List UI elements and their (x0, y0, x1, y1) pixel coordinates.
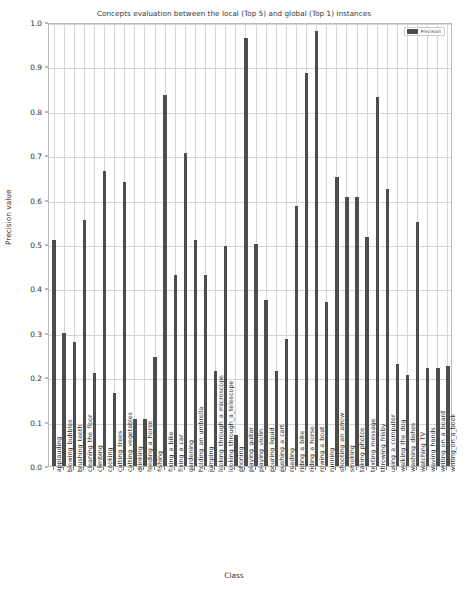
x-tick-mark (356, 467, 357, 470)
bar (52, 240, 55, 466)
y-tick-label: 0.6 (30, 196, 42, 205)
bar (355, 197, 358, 466)
bar (315, 31, 318, 466)
x-tick-label: taking_photos (358, 428, 365, 472)
x-tick-label: climbing (96, 445, 103, 472)
x-tick-mark (295, 467, 296, 470)
x-axis-ticks: applaudingblowing_bubblesbrushing_teethc… (48, 467, 452, 577)
bar (204, 275, 207, 466)
bar (153, 357, 156, 466)
bar (376, 97, 379, 466)
x-tick-label: rowing_a_boat (318, 426, 325, 472)
y-tick-label: 1.0 (30, 19, 42, 28)
x-tick-label: walking_the_dog (399, 419, 406, 472)
x-tick-mark (194, 467, 195, 470)
x-tick-label: cleaning_the_floor (86, 414, 93, 472)
legend-swatch-precision (407, 29, 418, 34)
x-tick-label: playing_violin (257, 429, 264, 472)
x-tick-mark (174, 467, 175, 470)
x-tick-mark (406, 467, 407, 470)
x-tick-mark (436, 467, 437, 470)
x-tick-mark (366, 467, 367, 470)
x-tick-label: gardening (187, 440, 194, 472)
x-tick-label: looking_through_a_telescope (227, 381, 234, 472)
y-tick-label: 0.3 (30, 329, 42, 338)
y-tick-label: 0.2 (30, 374, 42, 383)
x-tick-mark (154, 467, 155, 470)
x-tick-label: phoning (237, 446, 244, 472)
x-tick-label: running (328, 448, 335, 472)
x-tick-label: jumping (207, 446, 214, 472)
x-tick-mark (335, 467, 336, 470)
x-tick-mark (325, 467, 326, 470)
plot-area: Precision (48, 23, 452, 467)
y-tick-label: 0.0 (30, 463, 42, 472)
bar (184, 153, 187, 466)
x-tick-label: drinking (136, 446, 143, 472)
x-tick-mark (386, 467, 387, 470)
bar (345, 197, 348, 466)
x-tick-label: using_a_computer (389, 414, 396, 472)
x-tick-mark (113, 467, 114, 470)
x-tick-mark (53, 467, 54, 470)
x-tick-mark (416, 467, 417, 470)
x-tick-mark (184, 467, 185, 470)
x-tick-mark (83, 467, 84, 470)
x-tick-label: watching_TV (419, 432, 426, 472)
x-tick-label: fixing_a_bike (167, 431, 174, 472)
x-tick-mark (214, 467, 215, 470)
x-tick-label: holding_an_umbrella (197, 407, 204, 472)
x-tick-label: applauding (55, 437, 62, 472)
x-tick-label: playing_guitar (247, 427, 254, 472)
x-tick-label: fishing (156, 451, 163, 472)
x-tick-label: feeding_a_horse (146, 421, 153, 472)
x-tick-mark (446, 467, 447, 470)
x-tick-mark (133, 467, 134, 470)
x-tick-label: cooking (106, 447, 113, 472)
x-tick-label: fixing_a_car (177, 435, 184, 473)
x-tick-mark (73, 467, 74, 470)
x-tick-label: smoking (348, 445, 355, 472)
x-tick-label: texting_message (369, 418, 376, 472)
x-tick-label: cutting_trees (116, 431, 123, 472)
x-tick-mark (244, 467, 245, 470)
x-tick-mark (426, 467, 427, 470)
y-tick-label: 0.9 (30, 63, 42, 72)
x-tick-label: blowing_bubbles (66, 419, 73, 472)
bar (163, 95, 166, 466)
x-tick-mark (315, 467, 316, 470)
y-axis-ticks: 0.00.10.20.30.40.50.60.70.80.91.0 (0, 23, 48, 467)
y-tick-label: 0.1 (30, 418, 42, 427)
x-tick-label: cutting_vegetables (126, 412, 133, 472)
x-tick-label: brushing_teeth (76, 425, 83, 472)
x-tick-mark (234, 467, 235, 470)
x-tick-mark (396, 467, 397, 470)
x-axis-label: Class (0, 571, 468, 580)
x-tick-mark (376, 467, 377, 470)
x-tick-label: waving_hands (429, 427, 436, 472)
bar (295, 206, 298, 466)
y-tick-label: 0.5 (30, 241, 42, 250)
x-tick-label: writing_on_a_book (449, 414, 456, 472)
x-tick-mark (123, 467, 124, 470)
bar (325, 302, 328, 466)
y-tick-label: 0.8 (30, 107, 42, 116)
x-tick-label: writing_on_a_board (439, 411, 446, 472)
x-tick-label: throwing_frisby (379, 424, 386, 472)
x-tick-label: shooting_an_arrow (338, 413, 345, 472)
x-tick-label: pouring_liquid (268, 427, 275, 472)
x-tick-mark (103, 467, 104, 470)
bar (244, 38, 247, 466)
x-tick-mark (345, 467, 346, 470)
x-tick-mark (305, 467, 306, 470)
bar (416, 222, 419, 466)
x-tick-mark (63, 467, 64, 470)
x-tick-mark (285, 467, 286, 470)
x-tick-mark (93, 467, 94, 470)
bar (305, 73, 308, 466)
x-tick-mark (224, 467, 225, 470)
x-tick-label: looking_through_a_microscope (217, 375, 224, 472)
y-tick-label: 0.7 (30, 152, 42, 161)
legend-label-precision: Precision (421, 29, 442, 34)
x-tick-mark (265, 467, 266, 470)
